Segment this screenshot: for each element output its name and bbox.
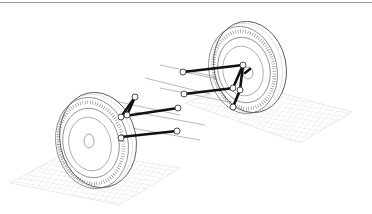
- joint-left-mid2: [124, 112, 130, 118]
- joint-mid-right-inboard: [181, 91, 187, 97]
- joint-left-mid: [118, 114, 124, 120]
- joint-left-upper: [132, 94, 138, 100]
- joint-right-upper: [240, 62, 246, 68]
- joint-left-lower-inboard: [174, 128, 180, 134]
- suspension-diagram: Multi-link suspension wireframe: [0, 0, 372, 214]
- joint-right-lower: [230, 104, 236, 110]
- joint-left-lower: [118, 135, 124, 141]
- joint-right-mid2: [237, 87, 243, 93]
- joint-upper-right-inboard: [180, 69, 186, 75]
- joint-right-mid: [230, 85, 236, 91]
- joint-left-mid-inboard: [175, 105, 181, 111]
- diagram-canvas: [0, 0, 372, 214]
